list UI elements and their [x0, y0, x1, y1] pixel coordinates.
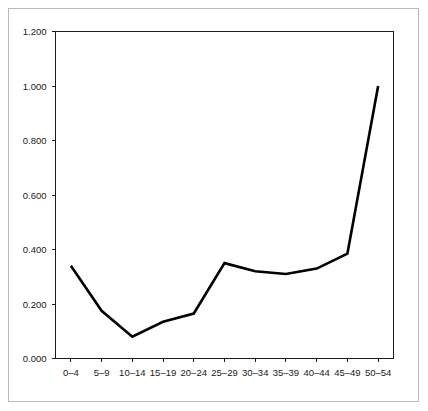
x-axis-tick-labels: 0–45–910–1415–1920–2425–2930–3435–3940–4…	[63, 367, 391, 378]
y-tick-label: 1.000	[23, 81, 47, 92]
x-tick-label: 5–9	[94, 367, 110, 378]
y-tick-label: 0.000	[23, 353, 47, 364]
y-tick-label: 0.600	[23, 190, 47, 201]
x-tick-label: 20–24	[181, 367, 207, 378]
x-tick-label: 50–54	[365, 367, 391, 378]
x-tick-label: 40–44	[303, 367, 329, 378]
x-tick-label: 0–4	[63, 367, 79, 378]
plot-axes	[56, 32, 394, 359]
y-tick-label: 0.200	[23, 299, 47, 310]
x-tick-label: 35–39	[273, 367, 299, 378]
y-tick-label: 0.400	[23, 244, 47, 255]
x-tick-label: 45–49	[334, 367, 360, 378]
y-axis-tick-labels: 0.0000.2000.4000.6000.8001.0001.200	[23, 26, 47, 364]
y-tick-label: 1.200	[23, 26, 47, 37]
x-tick-label: 25–29	[211, 367, 237, 378]
x-tick-label: 10–14	[119, 367, 145, 378]
x-tick-label: 15–19	[150, 367, 176, 378]
line-chart: 0.0000.2000.4000.6000.8001.0001.200 0–45…	[0, 0, 428, 411]
x-tick-label: 30–34	[242, 367, 268, 378]
y-tick-label: 0.800	[23, 135, 47, 146]
data-series-line	[71, 86, 378, 337]
